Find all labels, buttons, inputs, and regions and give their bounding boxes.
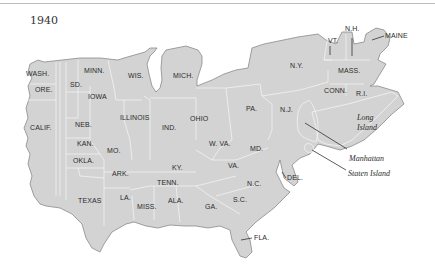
label-vt: VT. bbox=[328, 37, 338, 44]
label-md: MD. bbox=[250, 145, 263, 152]
label-okla: OKLA. bbox=[73, 157, 94, 164]
label-sc: S.C. bbox=[233, 196, 247, 203]
label-maine: MAINE bbox=[385, 32, 408, 39]
label-ny: N.Y. bbox=[290, 62, 303, 69]
label-mo: MO. bbox=[107, 147, 121, 154]
staten-island-shape bbox=[304, 144, 313, 153]
label-la: LA. bbox=[120, 194, 131, 201]
label-mich: MICH. bbox=[173, 72, 193, 79]
label-ri: R.I. bbox=[356, 90, 367, 97]
label-del: DEL. bbox=[287, 174, 303, 181]
label-fla: FLA. bbox=[254, 234, 269, 241]
label-ky: KY. bbox=[172, 164, 183, 171]
label-manhattan: Manhattan bbox=[348, 154, 384, 163]
label-nc: N.C. bbox=[247, 180, 261, 187]
label-staten-island: Staten Island bbox=[348, 169, 391, 178]
us-cartogram-map: WASH. ORE. CALIF. SD. MINN. IOWA WIS. MI… bbox=[0, 0, 435, 267]
label-ohio: OHIO bbox=[190, 115, 209, 122]
label-sd: SD. bbox=[70, 81, 82, 88]
label-ga: GA. bbox=[205, 203, 217, 210]
label-long-island-1: Long bbox=[356, 113, 373, 122]
label-neb: NEB. bbox=[75, 121, 92, 128]
label-miss: MISS. bbox=[137, 203, 157, 210]
label-calif: CALIF. bbox=[30, 124, 52, 131]
label-conn: CONN. bbox=[324, 87, 347, 94]
label-kan: KAN. bbox=[77, 140, 94, 147]
label-wash: WASH. bbox=[26, 70, 49, 77]
label-va: VA. bbox=[228, 162, 239, 169]
label-w-va: W. VA. bbox=[209, 140, 230, 147]
label-iowa: IOWA bbox=[88, 93, 107, 100]
label-mass: MASS. bbox=[338, 67, 360, 74]
label-illinois: ILLINOIS bbox=[120, 114, 150, 121]
label-pa: PA. bbox=[246, 105, 257, 112]
label-texas: TEXAS bbox=[78, 197, 102, 204]
label-tenn: TENN. bbox=[157, 179, 179, 186]
label-ore: ORE. bbox=[35, 86, 53, 93]
label-long-island-2: Island bbox=[356, 123, 378, 132]
label-minn: MINN. bbox=[84, 67, 104, 74]
label-ark: ARK. bbox=[112, 170, 129, 177]
label-nj: N.J. bbox=[280, 106, 293, 113]
label-ala: ALA. bbox=[168, 197, 184, 204]
label-nh: N.H. bbox=[345, 25, 359, 32]
label-wis: WIS. bbox=[128, 72, 144, 79]
label-ind: IND. bbox=[162, 124, 176, 131]
